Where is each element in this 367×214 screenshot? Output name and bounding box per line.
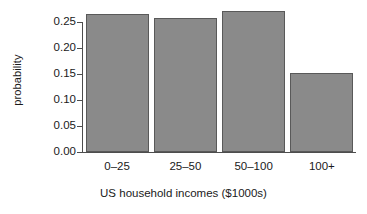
- bar: [86, 14, 149, 152]
- plot-area: [83, 0, 356, 153]
- y-axis-tick-label: 0.25: [54, 16, 76, 28]
- y-axis-tick-label: 0.10: [54, 94, 76, 106]
- x-axis-tick-labels: 0–2525–5050–100100+: [83, 161, 356, 177]
- y-axis-tick-mark: [77, 126, 82, 127]
- y-axis-title-text: probability: [11, 54, 23, 105]
- bar: [154, 18, 217, 152]
- x-axis-tick-label: 50–100: [220, 161, 288, 173]
- y-axis-tick-mark: [77, 152, 82, 153]
- y-axis-tick-label: 0.00: [54, 146, 76, 158]
- y-axis-title: probability: [6, 0, 28, 160]
- x-axis-tick-label: 0–25: [83, 161, 151, 173]
- bar: [290, 73, 353, 152]
- y-axis-tick-label: 0.15: [54, 68, 76, 80]
- x-axis-title: US household incomes ($1000s): [0, 187, 367, 199]
- x-axis-line: [83, 152, 356, 153]
- y-axis-tick-mark: [77, 100, 82, 101]
- y-axis-tick-label: 0.20: [54, 42, 76, 54]
- x-axis-tick-label: 25–50: [151, 161, 219, 173]
- y-axis-tick-label: 0.05: [54, 120, 76, 132]
- x-axis-tick-label: 100+: [288, 161, 356, 173]
- y-axis-tick-mark: [77, 48, 82, 49]
- bar: [222, 11, 285, 152]
- y-axis-tick-mark: [77, 74, 82, 75]
- y-axis-tick-mark: [77, 22, 82, 23]
- bar-chart: probability 0.000.050.100.150.200.25 0–2…: [0, 0, 367, 214]
- y-axis-tick-labels: 0.000.050.100.150.200.25: [26, 0, 76, 214]
